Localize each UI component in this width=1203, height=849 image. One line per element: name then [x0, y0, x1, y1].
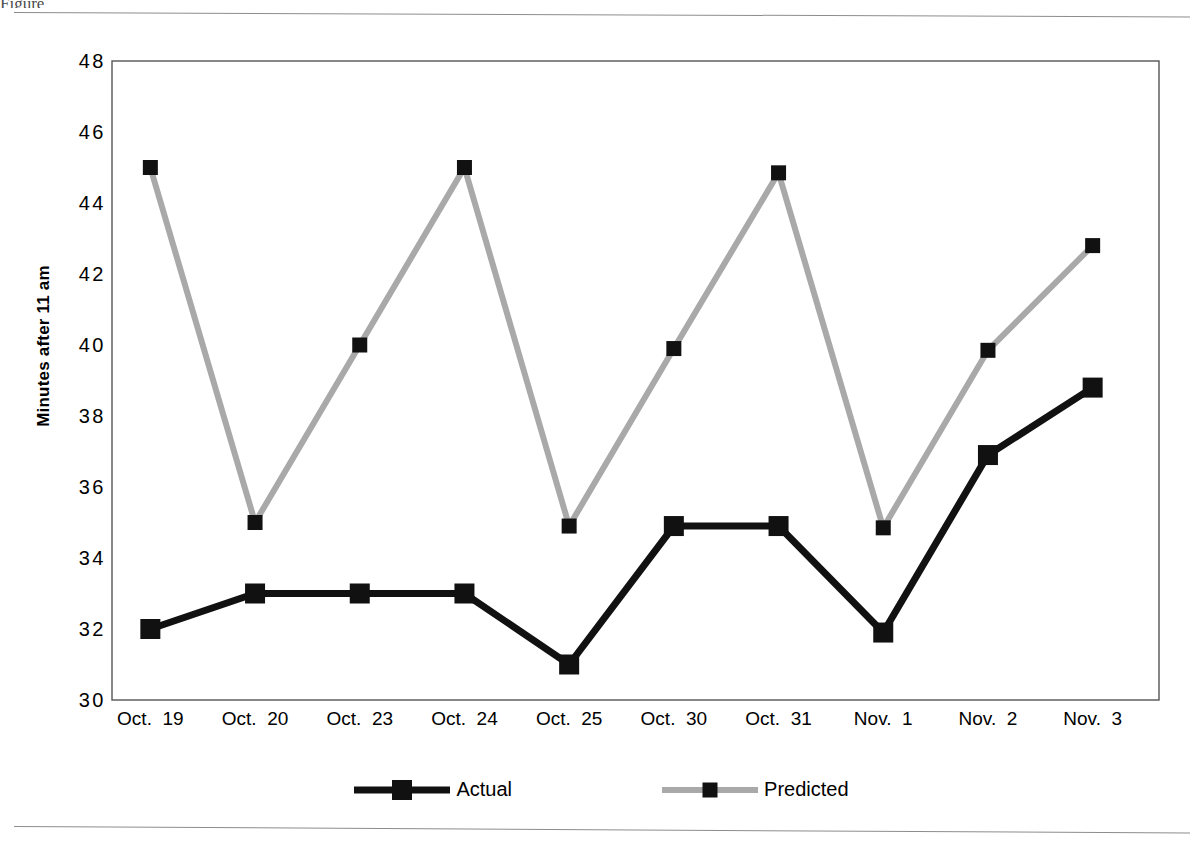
x-tick-label: Oct. 24 — [431, 708, 498, 730]
data-point-marker — [352, 338, 367, 353]
data-point-marker — [350, 584, 370, 604]
x-tick-label: Oct. 25 — [536, 708, 603, 730]
x-tick-label: Oct. 20 — [222, 708, 289, 730]
legend-entry-predicted[interactable]: Predicted — [662, 778, 849, 801]
data-point-marker — [559, 655, 579, 675]
data-point-marker — [1083, 378, 1103, 398]
x-tick-label: Oct. 30 — [641, 708, 708, 730]
series-actual — [140, 378, 1102, 675]
legend-entry-actual[interactable]: Actual — [354, 778, 512, 801]
data-point-marker — [143, 160, 158, 175]
plot-frame — [112, 61, 1159, 700]
series-line-predicted — [150, 168, 1092, 528]
data-point-marker — [454, 584, 474, 604]
data-point-marker — [873, 623, 893, 643]
legend-swatch-predicted — [662, 779, 758, 801]
x-tick-label: Nov. 1 — [854, 708, 913, 730]
data-point-marker — [1085, 238, 1100, 253]
x-tick-label: Oct. 23 — [326, 708, 393, 730]
x-tick-label: Nov. 2 — [959, 708, 1018, 730]
data-point-marker — [666, 341, 681, 356]
data-point-marker — [248, 515, 263, 530]
series-line-actual — [150, 388, 1092, 665]
data-point-marker — [245, 584, 265, 604]
x-tick-label: Oct. 19 — [117, 708, 184, 730]
data-point-marker — [457, 160, 472, 175]
legend-label-actual: Actual — [456, 778, 512, 801]
data-point-marker — [978, 445, 998, 465]
x-tick-label: Nov. 3 — [1063, 708, 1122, 730]
data-point-marker — [562, 519, 577, 534]
figure-chart: Minutes after 11 am 30323436384042444648… — [0, 14, 1203, 826]
legend-swatch-actual — [354, 779, 450, 801]
page-rule-bottom — [14, 826, 1190, 834]
data-point-marker — [876, 520, 891, 535]
chart-legend: Actual Predicted — [0, 778, 1203, 801]
data-point-marker — [771, 165, 786, 180]
legend-label-predicted: Predicted — [764, 778, 849, 801]
data-point-marker — [140, 619, 160, 639]
data-point-marker — [769, 516, 789, 536]
data-point-marker — [664, 516, 684, 536]
series-predicted — [143, 160, 1100, 535]
x-tick-label: Oct. 31 — [745, 708, 812, 730]
cut-off-caption-text: Figure — [0, 0, 44, 8]
plot-area — [0, 14, 1203, 774]
data-point-marker — [980, 343, 995, 358]
